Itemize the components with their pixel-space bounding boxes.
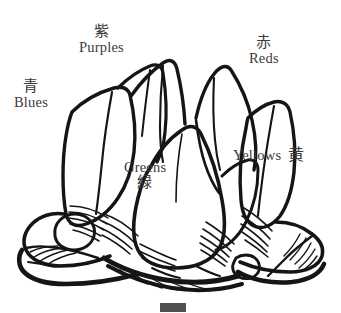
label-purples-jp: 紫 <box>79 24 124 40</box>
label-reds-en: Reds <box>249 51 279 66</box>
label-blues-en: Blues <box>14 95 48 110</box>
label-reds: 赤 Reds <box>249 35 279 66</box>
label-yellows-jp: 黄 <box>288 147 305 164</box>
label-yellows: Yellows 黄 <box>233 147 305 164</box>
label-greens: Greens 緑 <box>124 160 166 191</box>
cropped-caption-mark <box>160 303 186 312</box>
label-purples-en: Purples <box>79 40 124 55</box>
label-yellows-en: Yellows <box>233 148 281 163</box>
label-blues: 青 Blues <box>14 79 48 110</box>
label-purples: 紫 Purples <box>79 24 124 55</box>
label-greens-jp: 緑 <box>124 175 166 191</box>
label-blues-jp: 青 <box>14 79 48 95</box>
label-greens-en: Greens <box>124 160 166 175</box>
flower-colour-diagram: 紫 Purples 赤 Reds 青 Blues Greens 緑 Yellow… <box>0 0 341 313</box>
label-reds-jp: 赤 <box>249 35 279 51</box>
